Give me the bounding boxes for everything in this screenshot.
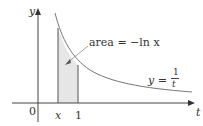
tick-one-label: 1 (75, 110, 82, 121)
curve-label-lhs: y = (148, 75, 167, 86)
tick-x-label: x (55, 110, 61, 121)
curve-label-den: t (172, 80, 176, 89)
diagram: y t 0 x 1 area = −ln x y = 1 t (0, 0, 203, 126)
shaded-area (58, 28, 78, 103)
y-axis-label: y (29, 6, 35, 17)
area-label: area = −ln x (89, 37, 160, 48)
t-axis-arrow-icon (188, 100, 195, 106)
y-axis-arrow-icon (35, 8, 41, 15)
curve-label-num: 1 (173, 68, 179, 77)
t-axis-label: t (196, 107, 200, 118)
origin-label: 0 (29, 106, 36, 117)
